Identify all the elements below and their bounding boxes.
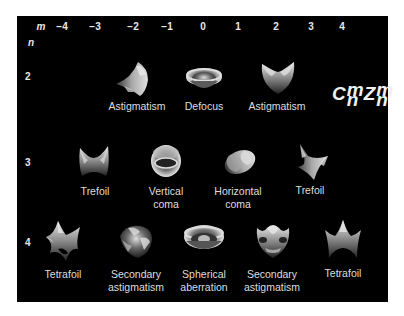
- n-value: 3: [25, 157, 31, 168]
- m-value: 0: [200, 21, 206, 32]
- term-label: Horizontalcoma: [214, 185, 261, 211]
- term-label: Verticalcoma: [149, 185, 183, 211]
- trefoil-vertical-icon: [294, 142, 330, 182]
- term-label: Tetrafoil: [45, 268, 82, 281]
- m-value: 2: [273, 21, 279, 32]
- term-label: Tetrafoil: [325, 267, 362, 280]
- n-value: 4: [25, 237, 31, 248]
- tetrafoil-oblique-icon: [44, 219, 84, 263]
- m-value: −4: [56, 21, 67, 32]
- tetrafoil-vertical-icon: [323, 218, 363, 264]
- vertical-coma-icon: [149, 143, 183, 179]
- m-value: 3: [308, 21, 314, 32]
- horizontal-coma-icon: [222, 147, 258, 177]
- axis-n-label: n: [28, 37, 34, 48]
- m-value: −3: [89, 21, 100, 32]
- spherical-aberration-icon: [182, 223, 226, 253]
- zernike-formula: CmnZmn: [332, 83, 393, 105]
- term-label: Trefoil: [81, 185, 110, 198]
- term-label: Secondaryastigmatism: [108, 268, 164, 294]
- astigmatism-vertical-icon: [258, 58, 298, 98]
- m-value: −2: [127, 21, 138, 32]
- term-label: Astigmatism: [108, 100, 165, 113]
- secondary-astigmatism-oblique-icon: [116, 222, 156, 260]
- trefoil-oblique-icon: [76, 144, 112, 180]
- m-value: 1: [235, 21, 241, 32]
- term-label: Trefoil: [296, 184, 325, 197]
- term-label: Sphericalaberration: [180, 268, 227, 294]
- astigmatism-oblique-icon: [112, 58, 152, 98]
- term-label: Astigmatism: [248, 100, 305, 113]
- n-value: 2: [25, 71, 31, 82]
- axis-m-label: m: [37, 21, 46, 32]
- term-label: Secondaryastigmatism: [244, 268, 300, 294]
- m-value: 4: [339, 21, 345, 32]
- term-label: Defocus: [185, 100, 224, 113]
- secondary-astigmatism-vertical-icon: [253, 220, 293, 260]
- m-value: −1: [161, 21, 172, 32]
- defocus-icon: [184, 65, 224, 93]
